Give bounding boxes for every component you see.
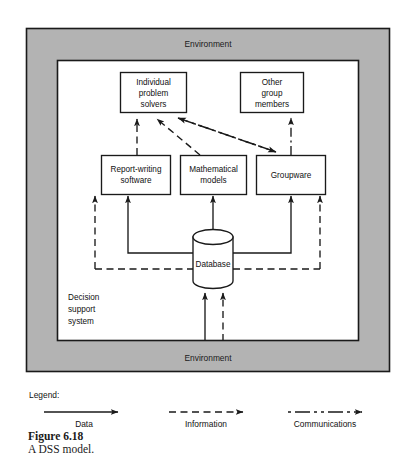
legend-label-communications: Communications	[294, 419, 356, 429]
database-cylinder-top	[193, 230, 233, 245]
other-group-members-label-line3: members	[255, 100, 289, 109]
report-writing-software-label-line1: Report-writing	[111, 165, 162, 174]
individual-problem-solvers-label-line2: problem	[139, 89, 169, 98]
legend-title: Legend:	[29, 390, 59, 400]
database-node: Database	[193, 230, 233, 289]
individual-problem-solvers-node: Individual problem solvers	[121, 73, 187, 113]
figure-number: Figure 6.18	[28, 430, 84, 443]
dss-label-line2: support	[68, 305, 96, 314]
environment-bottom-label: Environment	[184, 353, 232, 363]
figure-caption: Figure 6.18 A DSS model.	[28, 430, 94, 455]
dss-label-line1: Decision	[68, 293, 100, 302]
report-writing-software-box	[102, 156, 171, 195]
mathematical-models-node: Mathematical models	[181, 156, 247, 195]
mathematical-models-label-line2: models	[200, 176, 226, 185]
individual-problem-solvers-label-line1: Individual	[136, 78, 171, 87]
legend-item-communications: Communications	[288, 412, 362, 429]
report-writing-software-label-line2: software	[121, 176, 152, 185]
environment-top-label: Environment	[184, 39, 232, 49]
other-group-members-label-line2: group	[262, 89, 283, 98]
other-group-members-label-line1: Other	[262, 78, 283, 87]
figure-title: A DSS model.	[28, 443, 94, 455]
legend-item-information: Information	[169, 412, 243, 429]
mathematical-models-box	[181, 156, 247, 195]
other-group-members-node: Other group members	[241, 73, 304, 113]
database-label: Database	[195, 260, 230, 269]
mathematical-models-label-line1: Mathematical	[189, 165, 238, 174]
groupware-node: Groupware	[257, 156, 326, 195]
legend-label-data: Data	[75, 419, 93, 429]
dss-model-figure: Environment Environment Database Report-…	[0, 0, 415, 457]
groupware-label: Groupware	[271, 171, 312, 180]
dss-label-line3: system	[68, 317, 94, 326]
individual-problem-solvers-label-line3: solvers	[141, 100, 167, 109]
legend: Legend: Data Information Communications	[29, 390, 362, 429]
dss-inner-rect	[58, 61, 359, 341]
legend-label-information: Information	[185, 419, 227, 429]
legend-item-data: Data	[44, 412, 118, 429]
report-writing-software-node: Report-writing software	[102, 156, 171, 195]
decision-support-system-boundary	[58, 61, 359, 341]
